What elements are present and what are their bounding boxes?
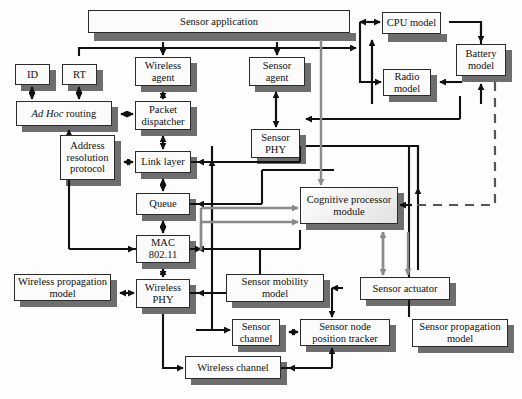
block-label: Wireless PHY <box>137 282 189 306</box>
block-label: ID <box>25 69 40 81</box>
block-label: Sensor mobility model <box>227 276 323 300</box>
block-wireless-propagation-model[interactable]: Wireless propagation model <box>14 274 111 301</box>
block-id[interactable]: ID <box>15 64 50 85</box>
block-label: Sensor channel <box>233 321 279 345</box>
block-sensor-channel[interactable]: Sensor channel <box>232 319 280 346</box>
block-label: Sensor agent <box>250 60 304 84</box>
block-label: Address resolution protocol <box>61 140 114 175</box>
block-label: Wireless channel <box>195 362 271 374</box>
block-label: Queue <box>147 198 178 210</box>
block-address-resolution-protocol[interactable]: Address resolution protocol <box>60 135 115 180</box>
block-sensor-node-position-tracker[interactable]: Sensor node position tracker <box>300 319 390 346</box>
block-label: Battery model <box>457 48 505 72</box>
block-queue[interactable]: Queue <box>136 193 190 215</box>
block-wireless-channel[interactable]: Wireless channel <box>185 356 281 379</box>
block-sensor-mobility-model[interactable]: Sensor mobility model <box>226 274 324 302</box>
block-mac-802-11[interactable]: MAC 802.11 <box>136 235 190 263</box>
block-label: MAC 802.11 <box>137 237 189 261</box>
block-cpu-model[interactable]: CPU model <box>382 12 441 34</box>
block-label: Sensor propagation model <box>413 321 507 345</box>
block-cognitive-processor-module[interactable]: Cognitive processor module <box>300 187 398 224</box>
block-wireless-agent[interactable]: Wireless agent <box>135 57 191 86</box>
block-link-layer[interactable]: Link layer <box>135 151 191 173</box>
block-label: RT <box>71 69 88 81</box>
block-sensor-application[interactable]: Sensor application <box>88 10 350 33</box>
block-label: Radio model <box>384 71 430 95</box>
block-label: Packet dispatcher <box>136 104 190 128</box>
block-sensor-phy[interactable]: Sensor PHY <box>251 129 300 158</box>
block-sensor-propagation-model[interactable]: Sensor propagation model <box>412 319 508 347</box>
block-label: Link layer <box>139 156 186 168</box>
block-label: Cognitive processor module <box>301 194 397 218</box>
block-packet-dispatcher[interactable]: Packet dispatcher <box>135 101 191 130</box>
diagram-canvas: Sensor application CPU model Battery mod… <box>0 0 522 399</box>
ad-hoc-italic: Ad Hoc <box>32 108 64 119</box>
block-ad-hoc-routing[interactable]: Ad Hoc routing <box>16 101 112 126</box>
block-wireless-phy[interactable]: Wireless PHY <box>136 279 190 308</box>
block-label: Sensor application <box>178 16 260 28</box>
block-radio-model[interactable]: Radio model <box>383 69 431 96</box>
block-label: Sensor PHY <box>252 132 299 156</box>
block-label: Wireless agent <box>136 60 190 84</box>
block-battery-model[interactable]: Battery model <box>456 44 506 76</box>
block-label: Ad Hoc routing <box>30 108 99 120</box>
block-label: Sensor actuator <box>370 283 439 295</box>
block-label: Wireless propagation model <box>15 276 110 300</box>
block-label: CPU model <box>385 17 438 29</box>
block-sensor-agent[interactable]: Sensor agent <box>249 57 305 86</box>
ad-hoc-rest: routing <box>63 108 96 119</box>
block-rt[interactable]: RT <box>62 64 97 85</box>
block-label: Sensor node position tracker <box>301 321 389 345</box>
block-sensor-actuator[interactable]: Sensor actuator <box>360 277 450 300</box>
